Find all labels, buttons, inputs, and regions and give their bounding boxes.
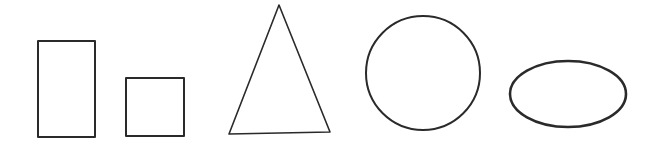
square-shape [126,78,184,136]
rectangle-shape [38,41,95,137]
ellipse-shape [510,61,626,127]
shapes-canvas [0,0,656,151]
circle-shape [366,16,480,130]
triangle-shape [229,5,330,134]
